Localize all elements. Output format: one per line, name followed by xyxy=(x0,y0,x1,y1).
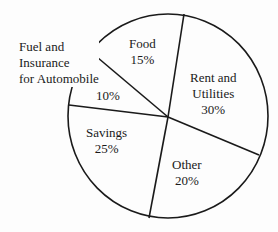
slice-label-rent: Rent and Utilities 30% xyxy=(190,70,237,118)
slice-pct-fuel: 10% xyxy=(96,88,120,104)
food-label: Food xyxy=(129,36,156,52)
slice-label-fuel: Fuel and Insurance for Automobile xyxy=(19,39,99,87)
rent-label-line1: Rent and xyxy=(190,70,237,86)
other-label: Other xyxy=(172,157,202,173)
boundary-other-savings xyxy=(149,117,168,218)
fuel-label-line3: for Automobile xyxy=(19,71,99,87)
savings-pct: 25% xyxy=(86,141,127,157)
boundary-rent-other xyxy=(168,117,259,155)
savings-label: Savings xyxy=(86,125,127,141)
fuel-label-line2: Insurance xyxy=(19,55,99,71)
fuel-label-line1: Fuel and xyxy=(19,39,99,55)
boundary-savings-fuel xyxy=(69,105,168,117)
other-pct: 20% xyxy=(172,173,202,189)
slice-label-savings: Savings 25% xyxy=(86,125,127,157)
slice-label-food: Food 15% xyxy=(129,36,156,68)
rent-label-line2: Utilities xyxy=(190,86,237,102)
pie-chart: Fuel and Insurance for Automobile 10% Fo… xyxy=(0,0,278,232)
slice-label-other: Other 20% xyxy=(172,157,202,189)
boundary-food-rent xyxy=(168,14,184,117)
rent-pct: 30% xyxy=(190,102,237,118)
food-pct: 15% xyxy=(129,52,156,68)
